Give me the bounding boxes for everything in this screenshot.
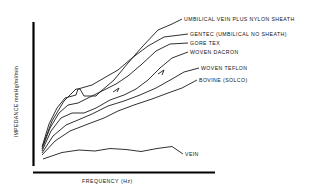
series-line-woven-teflon: [42, 72, 184, 153]
series-detail-tick-marker: [113, 88, 119, 92]
series-detail-tick-marker-2: [158, 70, 164, 75]
leader-line-bovine: [182, 80, 197, 88]
leader-line-vein: [172, 147, 183, 155]
series-line-umbilical-vein-plus-nylon-sheath: [43, 24, 172, 145]
leader-line-goretex: [170, 43, 188, 44]
chart-plot-area: [0, 0, 325, 193]
series-label-woven-dacron: WOVEN DACRON: [190, 50, 239, 55]
series-label-vein: VEIN: [185, 152, 199, 157]
leader-line-teflon: [184, 68, 199, 72]
series-line-gore-tex: [42, 44, 170, 149]
series-line-gentec-umbilical-no-sheath: [42, 37, 164, 147]
series-label-bovine-solco: BOVINE (SOLCO): [199, 78, 248, 83]
leader-line-umbilical: [172, 19, 182, 24]
leader-line-dacron: [172, 52, 188, 58]
series-label-gore-tex: GORE TEX: [190, 41, 220, 46]
x-axis-title: FREQUENCY (Hz): [82, 179, 133, 184]
series-line-bovine-solco: [42, 88, 182, 155]
impedance-vs-frequency-chart: UMBILICAL VEIN PLUS NYLON SHEATH GENTEC …: [0, 0, 325, 193]
series-label-umbilical-vein-plus-nylon-sheath: UMBILICAL VEIN PLUS NYLON SHEATH: [184, 17, 295, 22]
series-label-gentec-umbilical-no-sheath: GENTEC (UMBILICAL NO SHEATH): [190, 32, 287, 37]
series-label-woven-teflon: WOVEN TEFLON: [201, 66, 247, 71]
leader-line-gentec: [164, 34, 188, 37]
series-line-vein: [43, 147, 172, 160]
y-axis-title: IMPEDANCE mmHg/ml/min: [14, 59, 19, 145]
